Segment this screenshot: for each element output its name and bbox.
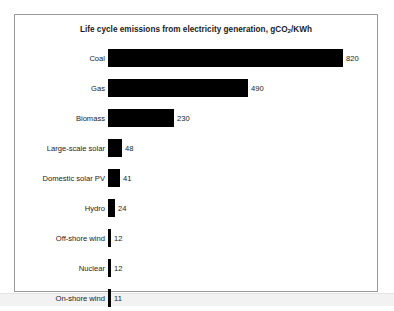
value-label-large-scale-solar: 48	[122, 144, 133, 153]
bar-row: On-shore wind 11	[15, 283, 379, 311]
bar-large-scale-solar	[108, 139, 122, 157]
bar-row: Hydro 24	[15, 193, 379, 223]
bar-track: 48	[108, 133, 379, 163]
plot-area: Coal 820 Gas 490 Biomass 230 Large-scale…	[15, 43, 379, 291]
value-label-biomass: 230	[174, 114, 190, 123]
bar-row: Off-shore wind 12	[15, 223, 379, 253]
bar-track: 12	[108, 253, 379, 283]
bar-track: 24	[108, 193, 379, 223]
bar-gas	[108, 79, 248, 97]
bar-track: 490	[108, 73, 379, 103]
value-label-domestic-solar-pv: 41	[120, 174, 131, 183]
value-label-on-shore-wind: 11	[111, 294, 122, 303]
category-label-hydro: Hydro	[15, 204, 105, 213]
category-label-off-shore-wind: Off-shore wind	[15, 234, 105, 243]
bar-row: Domestic solar PV 41	[15, 163, 379, 193]
value-label-off-shore-wind: 12	[111, 234, 122, 243]
category-label-nuclear: Nuclear	[15, 264, 105, 273]
value-label-gas: 490	[248, 84, 264, 93]
bar-row: Coal 820	[15, 43, 379, 73]
value-label-nuclear: 12	[111, 264, 122, 273]
bar-row: Biomass 230	[15, 103, 379, 133]
chart-frame: Life cycle emissions from electricity ge…	[14, 14, 378, 292]
bar-domestic-solar-pv	[108, 169, 120, 187]
bar-hydro	[108, 199, 115, 217]
category-label-large-scale-solar: Large-scale solar	[15, 144, 105, 153]
bar-track: 11	[108, 283, 379, 311]
bar-track: 820	[108, 43, 379, 73]
category-label-domestic-solar-pv: Domestic solar PV	[15, 174, 105, 183]
bar-row: Gas 490	[15, 73, 379, 103]
bar-track: 230	[108, 103, 379, 133]
category-label-biomass: Biomass	[15, 114, 105, 123]
chart-title: Life cycle emissions from electricity ge…	[15, 25, 377, 34]
bar-track: 12	[108, 223, 379, 253]
chart-title-subscript: 2	[288, 27, 291, 34]
value-label-hydro: 24	[115, 204, 126, 213]
bar-coal	[108, 49, 343, 67]
category-label-coal: Coal	[15, 54, 105, 63]
bar-row: Large-scale solar 48	[15, 133, 379, 163]
bar-row: Nuclear 12	[15, 253, 379, 283]
category-label-gas: Gas	[15, 84, 105, 93]
chart-title-tail: /KWh	[291, 25, 312, 34]
category-label-on-shore-wind: On-shore wind	[15, 294, 105, 303]
value-label-coal: 820	[343, 54, 359, 63]
chart-title-main: Life cycle emissions from electricity ge…	[80, 25, 288, 34]
bar-biomass	[108, 109, 174, 127]
bar-track: 41	[108, 163, 379, 193]
